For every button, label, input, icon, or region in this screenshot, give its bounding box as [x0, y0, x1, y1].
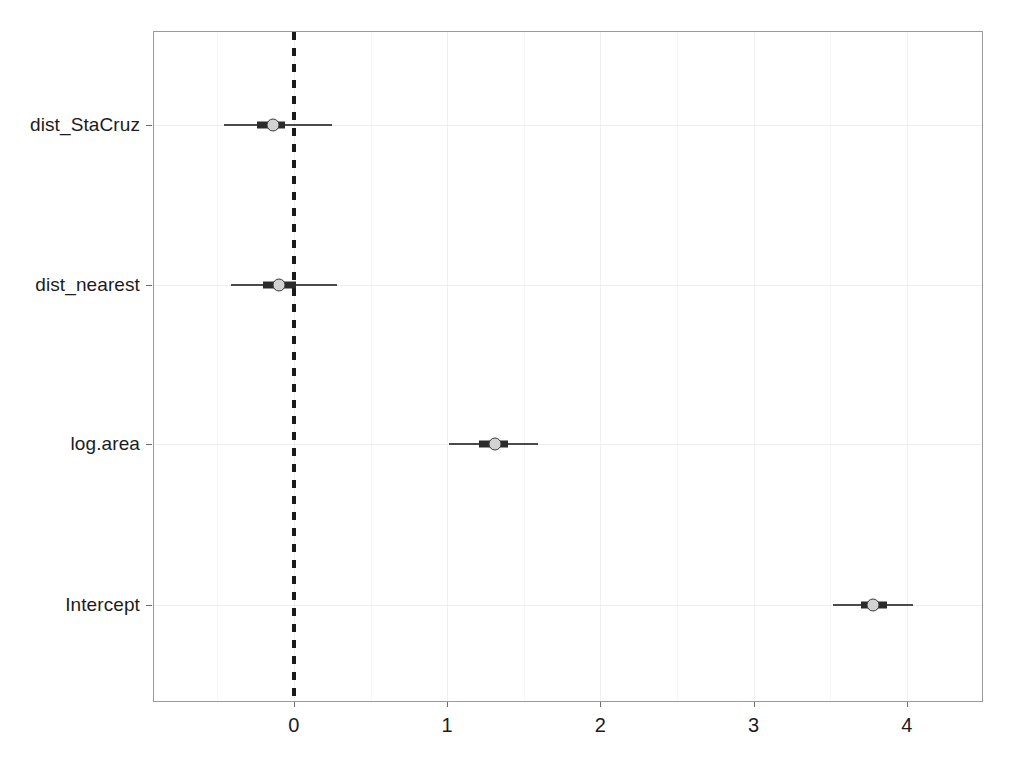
- x-axis-tick-label: 1: [442, 714, 453, 737]
- y-axis-tick-label: log.area: [71, 433, 140, 455]
- x-axis-tick-label: 2: [595, 714, 606, 737]
- x-axis-tick: [907, 702, 908, 707]
- y-axis-tick-label: dist_StaCruz: [30, 114, 140, 136]
- x-axis-tick-label: 4: [901, 714, 912, 737]
- point-estimate-marker: [272, 279, 285, 292]
- y-axis-tick-label: Intercept: [65, 594, 140, 616]
- point-estimate-marker: [488, 438, 501, 451]
- x-axis-tick: [447, 702, 448, 707]
- x-axis-tick: [600, 702, 601, 707]
- y-axis-tick: [146, 605, 152, 606]
- point-estimate-marker: [266, 119, 279, 132]
- x-axis-tick-label: 0: [288, 714, 299, 737]
- zero-reference-line: [292, 32, 296, 701]
- y-axis-tick-label: dist_nearest: [35, 274, 140, 296]
- coefficient-plot: 01234 dist_StaCruzdist_nearestlog.areaIn…: [0, 0, 1015, 760]
- plot-panel-frame: [153, 31, 983, 702]
- point-estimate-marker: [867, 599, 880, 612]
- y-axis-tick: [146, 125, 152, 126]
- x-axis-tick: [294, 702, 295, 707]
- x-axis-tick: [754, 702, 755, 707]
- y-axis-tick: [146, 285, 152, 286]
- y-axis-tick: [146, 444, 152, 445]
- x-axis-tick-label: 3: [748, 714, 759, 737]
